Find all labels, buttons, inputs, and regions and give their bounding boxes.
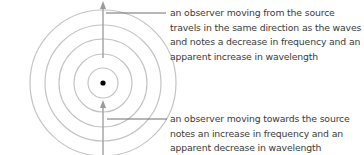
annotation-moving-away: an observer moving from the source trave… <box>170 6 364 64</box>
source-dot <box>100 80 105 85</box>
annotation-moving-towards: an observer moving towards the source no… <box>170 112 364 155</box>
